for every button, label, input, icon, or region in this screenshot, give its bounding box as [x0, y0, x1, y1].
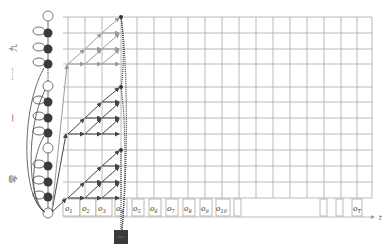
state-chain	[27, 11, 53, 218]
state-marker-mid	[119, 85, 123, 89]
side-label-nine: 九	[7, 44, 18, 52]
state-marker-low	[119, 148, 123, 152]
start-node-top	[43, 11, 53, 21]
observation-boxes	[63, 199, 362, 216]
start-node-low	[43, 143, 53, 153]
transitions-band-one	[68, 88, 119, 134]
side-label-one: 一	[7, 114, 18, 122]
state-marker-top	[119, 15, 123, 19]
transitions-entry	[52, 65, 67, 212]
start-node-mid	[43, 81, 53, 91]
side-label-ellipsis: ......	[7, 67, 15, 80]
start-node-bottom	[43, 208, 53, 218]
transitions-band-zero	[68, 151, 119, 198]
output-node	[114, 230, 128, 244]
trellis-grid	[63, 17, 372, 198]
transitions-band-nine	[68, 18, 119, 64]
side-label-zero: 零	[7, 175, 18, 183]
hmm-trellis-diagram: o1 o2 o3 o4 o5 o6 o7 o8 o9 o10 oT t	[0, 0, 391, 247]
time-axis-label: t	[379, 214, 382, 222]
